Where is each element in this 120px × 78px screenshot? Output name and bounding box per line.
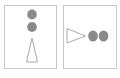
right-circle-left [88,31,98,42]
right-circle-right [99,31,109,42]
left-circle-top [27,10,37,20]
right-panel [64,6,117,69]
left-panel [5,6,57,69]
diagram-canvas [0,0,120,78]
left-circle-bottom [27,22,37,32]
